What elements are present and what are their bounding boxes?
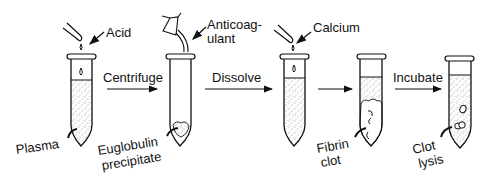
tube-dissolved <box>274 25 309 146</box>
anticoagulant-arrow <box>193 27 206 39</box>
calcium-arrow <box>297 32 311 43</box>
drop-icon <box>80 44 82 50</box>
label-anticoagulant-line2: ulant <box>207 32 235 46</box>
label-centrifuge: Centrifuge <box>103 71 163 85</box>
tube-euglobulin <box>162 13 195 146</box>
tube-fibrin-clot <box>355 54 386 146</box>
tube-plasma <box>63 23 96 146</box>
label-calcium: Calcium <box>313 21 360 35</box>
label-acid: Acid <box>106 26 131 40</box>
label-anticoagulant-line1: Anticoag- <box>207 18 262 32</box>
label-incubate: Incubate <box>393 71 443 85</box>
label-dissolve: Dissolve <box>212 71 261 85</box>
pipette-icon <box>274 25 293 43</box>
acid-arrow <box>90 32 104 44</box>
bottle-icon <box>163 17 178 35</box>
tube-clot-lysis <box>441 56 474 148</box>
pipette-icon <box>63 23 82 41</box>
drop-icon <box>292 45 294 51</box>
